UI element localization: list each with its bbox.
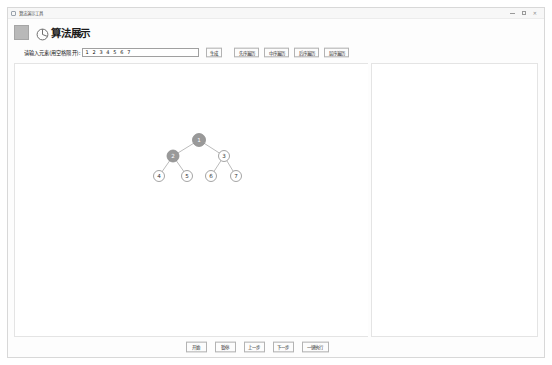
- pause-button[interactable]: 暂停: [215, 342, 236, 353]
- tree-node-label: 5: [185, 173, 189, 179]
- elements-input-label: 请输入元素(用空格隔开):: [24, 49, 80, 57]
- tree-node[interactable]: 2: [167, 150, 179, 162]
- tree-node-label: 4: [157, 173, 161, 179]
- tree-node-label: 3: [222, 153, 226, 159]
- binary-tree-visualization: 1234567: [15, 64, 368, 334]
- maximize-button[interactable]: [522, 11, 526, 15]
- app-logo-icon: [14, 25, 29, 40]
- tree-canvas-panel[interactable]: 1234567: [14, 63, 368, 337]
- app-icon: [11, 11, 16, 16]
- close-button[interactable]: ✕: [533, 11, 537, 16]
- input-toolbar: 请输入元素(用空格隔开): 生成 先序遍历中序遍历后序遍历层序遍历: [8, 45, 544, 60]
- elements-input[interactable]: [82, 48, 199, 57]
- tree-node[interactable]: 3: [219, 151, 230, 162]
- preorder-traversal-button[interactable]: 先序遍历: [234, 48, 259, 58]
- levelorder-traversal-button[interactable]: 层序遍历: [324, 48, 349, 58]
- application-window: 算法演示工具 ✕ 算法展示 请输入元素(用空格隔开): 生成 先序遍历中序遍历后…: [7, 7, 545, 358]
- tree-node[interactable]: 6: [206, 171, 217, 182]
- playback-controls: 开始暂停上一步下一步一键执行: [8, 337, 544, 357]
- tree-node[interactable]: 7: [231, 171, 242, 182]
- tree-node-label: 1: [197, 137, 201, 143]
- window-controls: ✕: [510, 11, 541, 16]
- tree-node-label: 2: [171, 153, 175, 159]
- next-step-button[interactable]: 下一步: [273, 342, 294, 353]
- start-button[interactable]: 开始: [186, 342, 207, 353]
- inorder-traversal-button[interactable]: 中序遍历: [264, 48, 289, 58]
- tree-node[interactable]: 4: [154, 171, 165, 182]
- content-area: 1234567: [8, 60, 544, 337]
- window-title: 算法演示工具: [19, 7, 44, 19]
- tree-node[interactable]: 5: [182, 171, 193, 182]
- tree-node-label: 6: [209, 173, 213, 179]
- window-title-bar: 算法演示工具 ✕: [8, 8, 544, 19]
- minimize-button[interactable]: [510, 13, 515, 14]
- tree-node-label: 7: [234, 173, 238, 179]
- postorder-traversal-button[interactable]: 后序遍历: [294, 48, 319, 58]
- output-log-panel[interactable]: [371, 63, 538, 337]
- generate-button[interactable]: 生成: [206, 48, 222, 58]
- run-all-button[interactable]: 一键执行: [302, 342, 329, 353]
- tree-glyph-icon: [36, 26, 49, 39]
- tree-node[interactable]: 1: [193, 134, 206, 147]
- previous-step-button[interactable]: 上一步: [244, 342, 265, 353]
- header-bar: 算法展示: [8, 19, 544, 45]
- traversal-button-group: 先序遍历中序遍历后序遍历层序遍历: [234, 48, 349, 57]
- page-title: 算法展示: [51, 25, 90, 40]
